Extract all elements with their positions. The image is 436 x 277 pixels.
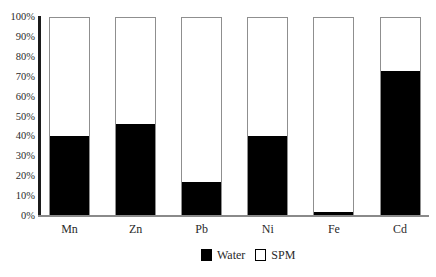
- plot-area: [0, 17, 436, 216]
- water-segment: [116, 124, 155, 215]
- legend-item-spm: SPM: [255, 248, 295, 262]
- x-axis: MnZnPbNiFeCd: [0, 222, 436, 238]
- legend-item-water: Water: [201, 248, 245, 262]
- x-axis-line: [38, 215, 429, 217]
- x-axis-category-label: Ni: [238, 222, 298, 236]
- legend-label: SPM: [271, 248, 295, 262]
- stacked-bar-chart: 0%10%20%30%40%50%60%70%80%90%100% MnZnPb…: [0, 0, 436, 277]
- water-segment: [50, 136, 89, 215]
- bar-fe: [313, 17, 354, 216]
- legend: WaterSPM: [201, 248, 295, 262]
- x-axis-category-label: Cd: [370, 222, 430, 236]
- legend-label: Water: [217, 248, 245, 262]
- water-segment: [248, 136, 287, 215]
- bar-cd: [380, 17, 421, 216]
- bar-mn: [49, 17, 90, 216]
- x-axis-category-label: Mn: [40, 222, 100, 236]
- x-axis-category-label: Pb: [172, 222, 232, 236]
- water-segment: [182, 182, 221, 215]
- water-segment: [381, 71, 420, 215]
- bar-pb: [181, 17, 222, 216]
- bar-zn: [115, 17, 156, 216]
- bar-ni: [247, 17, 288, 216]
- spm-swatch-icon: [255, 249, 266, 261]
- x-axis-category-label: Zn: [106, 222, 166, 236]
- x-axis-category-label: Fe: [304, 222, 364, 236]
- water-swatch-icon: [201, 249, 212, 261]
